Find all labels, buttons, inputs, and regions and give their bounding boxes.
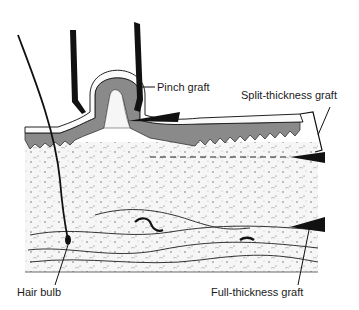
label-split-thickness-graft: Split-thickness graft xyxy=(241,90,337,101)
dermis-layer xyxy=(25,142,318,272)
skin-graft-diagram xyxy=(0,0,359,310)
label-full-thickness-graft: Full-thickness graft xyxy=(211,287,303,298)
label-pinch-graft: Pinch graft xyxy=(157,82,210,93)
label-hair-bulb: Hair bulb xyxy=(17,287,61,298)
